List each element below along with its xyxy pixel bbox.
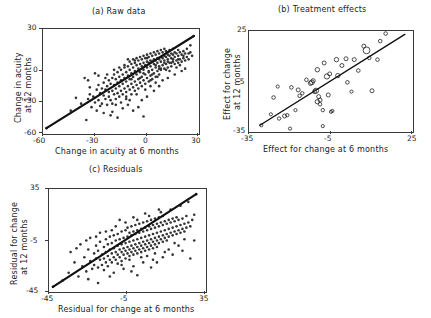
data-point: [146, 57, 149, 60]
data-point: [132, 265, 135, 268]
data-point: [123, 66, 126, 69]
data-point: [142, 240, 145, 243]
data-point: [156, 50, 159, 53]
data-point: [89, 86, 92, 89]
data-point: [116, 262, 119, 265]
data-point: [167, 219, 170, 222]
data-point: [151, 69, 154, 72]
data-point: [350, 90, 353, 93]
data-point: [122, 253, 125, 256]
data-point: [118, 238, 121, 241]
data-point: [135, 57, 138, 60]
data-point: [173, 230, 176, 233]
data-point: [186, 56, 189, 59]
data-point: [277, 117, 280, 120]
data-point: [127, 58, 130, 61]
data-point: [118, 76, 121, 79]
data-point: [120, 101, 123, 104]
data-point: [83, 256, 86, 259]
data-point: [151, 73, 154, 76]
data-point: [182, 57, 185, 60]
data-point: [344, 57, 348, 61]
data-point: [130, 83, 133, 86]
data-point: [109, 259, 112, 262]
data-point: [147, 70, 150, 73]
data-point: [179, 224, 182, 227]
data-point: [177, 62, 180, 65]
data-point: [128, 99, 131, 102]
data-point: [118, 219, 121, 222]
data-point: [142, 62, 145, 65]
data-point: [173, 56, 176, 59]
data-point: [191, 219, 194, 222]
data-point: [112, 234, 115, 237]
data-point: [315, 68, 319, 72]
data-point: [357, 69, 361, 73]
data-point: [186, 48, 189, 51]
data-point: [118, 85, 121, 88]
data-point: [142, 230, 145, 233]
panel-a-plot-area: [42, 28, 200, 135]
data-point: [167, 228, 170, 231]
panel-c-ylabel-line1: Residual for change: [10, 202, 19, 285]
data-point: [107, 243, 110, 246]
data-point: [139, 77, 142, 80]
data-point: [158, 65, 161, 68]
data-point: [185, 226, 188, 229]
data-point: [160, 49, 163, 52]
data-point: [183, 222, 186, 225]
data-point: [156, 62, 159, 65]
data-point: [193, 213, 196, 216]
data-point: [125, 98, 128, 101]
data-point: [144, 243, 147, 246]
data-point: [93, 264, 96, 267]
data-point: [132, 86, 135, 89]
data-point: [134, 62, 137, 65]
data-point: [114, 259, 117, 262]
data-point: [322, 61, 326, 65]
data-point: [146, 255, 149, 258]
data-point: [318, 102, 322, 106]
data-point: [90, 106, 93, 109]
data-point: [152, 259, 155, 262]
data-point: [175, 225, 178, 228]
data-point: [101, 264, 104, 267]
data-point: [111, 252, 114, 255]
data-point: [108, 95, 111, 98]
data-point: [154, 81, 157, 84]
panel-b-treatment-effects: (b) Treatment effects Effect for change …: [215, 0, 431, 160]
data-point: [134, 224, 137, 227]
data-point: [104, 77, 107, 80]
data-point: [163, 220, 166, 223]
data-point: [160, 60, 163, 63]
data-point: [120, 251, 123, 254]
panel-a-ytick-n30: -30: [24, 96, 36, 105]
panel-b-plot-area: [248, 30, 414, 133]
data-point: [79, 243, 82, 246]
data-point: [97, 266, 100, 269]
data-point: [124, 250, 127, 253]
data-point: [146, 229, 149, 232]
data-point: [139, 56, 142, 59]
data-point: [116, 253, 119, 256]
data-point: [172, 53, 175, 56]
data-point: [141, 99, 144, 102]
data-point: [128, 240, 131, 243]
data-point: [150, 228, 153, 231]
data-point: [128, 231, 131, 234]
data-point: [148, 248, 151, 251]
data-point: [118, 256, 121, 259]
data-point: [111, 90, 114, 93]
data-point: [173, 73, 176, 76]
data-point: [130, 225, 133, 228]
data-point: [326, 93, 330, 97]
data-point: [75, 247, 78, 250]
data-point: [179, 51, 182, 54]
data-point: [120, 69, 123, 72]
data-point: [179, 231, 182, 234]
data-point: [171, 253, 174, 256]
data-point: [161, 64, 164, 67]
data-point: [294, 109, 297, 112]
panel-c-xtick-n5: -5: [120, 294, 127, 303]
data-point: [124, 242, 127, 245]
